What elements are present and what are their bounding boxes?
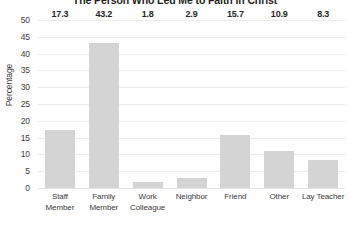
bar[interactable]: 8.3 xyxy=(308,160,338,188)
bar-value-label: 2.9 xyxy=(170,9,214,19)
x-axis-category-label: Other xyxy=(257,191,301,213)
bar-group: 1.8 xyxy=(126,20,170,188)
x-axis-category-line: Colleague xyxy=(126,202,170,213)
x-axis-category-line: Family xyxy=(82,191,126,202)
x-axis-category-label: Neighbor xyxy=(170,191,214,213)
gridline xyxy=(38,188,345,189)
y-axis-tick-label: 35 xyxy=(0,65,30,75)
bar-value-label: 17.3 xyxy=(38,9,82,19)
x-axis-category-line: Member xyxy=(82,202,126,213)
y-axis-tick-label: 20 xyxy=(0,116,30,126)
x-axis-category-line: Other xyxy=(257,191,301,202)
y-axis-tick-label: 5 xyxy=(0,166,30,176)
bar-chart: The Person Who Led Me to Faith in Christ… xyxy=(0,0,350,225)
bar[interactable]: 17.3 xyxy=(45,130,75,188)
bar-value-label: 15.7 xyxy=(213,9,257,19)
bar[interactable]: 2.9 xyxy=(177,178,207,188)
bar-group: 2.9 xyxy=(170,20,214,188)
x-axis-category-line: Friend xyxy=(213,191,257,202)
x-axis-category-label: FamilyMember xyxy=(82,191,126,213)
bar-value-label: 43.2 xyxy=(82,9,126,19)
x-axis-category-line: Staff xyxy=(38,191,82,202)
x-axis-category-label: Friend xyxy=(213,191,257,213)
x-axis-labels: StaffMemberFamilyMemberWorkColleagueNeig… xyxy=(38,191,345,213)
chart-title: The Person Who Led Me to Faith in Christ xyxy=(0,0,350,8)
x-axis-category-label: Lay Teacher xyxy=(301,191,345,213)
bar[interactable]: 1.8 xyxy=(133,182,163,188)
x-axis-category-label: WorkColleague xyxy=(126,191,170,213)
bar-group: 43.2 xyxy=(82,20,126,188)
bar-group: 10.9 xyxy=(257,20,301,188)
bar-group: 15.7 xyxy=(213,20,257,188)
y-axis-tick-label: 30 xyxy=(0,82,30,92)
bar-group: 17.3 xyxy=(38,20,82,188)
bar-group: 8.3 xyxy=(301,20,345,188)
x-axis-category-line: Lay Teacher xyxy=(301,191,345,202)
y-axis-tick-label: 40 xyxy=(0,49,30,59)
bar-value-label: 1.8 xyxy=(126,9,170,19)
y-axis-tick-label: 15 xyxy=(0,133,30,143)
bar-value-label: 10.9 xyxy=(257,9,301,19)
x-axis-category-line: Neighbor xyxy=(170,191,214,202)
y-axis-tick-label: 0 xyxy=(0,183,30,193)
y-axis-tick-label: 45 xyxy=(0,32,30,42)
y-axis-tick-label: 50 xyxy=(0,15,30,25)
bar-series: 17.343.21.82.915.710.98.3 xyxy=(38,20,345,188)
bar-value-label: 8.3 xyxy=(301,9,345,19)
bar[interactable]: 43.2 xyxy=(89,43,119,188)
y-axis-tick-label: 10 xyxy=(0,149,30,159)
x-axis-category-label: StaffMember xyxy=(38,191,82,213)
plot-area: 50454035302520151050 17.343.21.82.915.71… xyxy=(38,20,345,188)
bar[interactable]: 15.7 xyxy=(220,135,250,188)
bar[interactable]: 10.9 xyxy=(264,151,294,188)
y-axis-tick-label: 25 xyxy=(0,99,30,109)
x-axis-category-line: Work xyxy=(126,191,170,202)
x-axis-category-line: Member xyxy=(38,202,82,213)
